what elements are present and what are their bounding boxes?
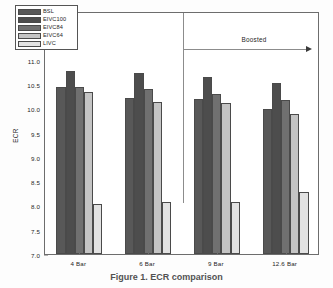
- bar-eivc100-9bar: [203, 77, 212, 254]
- bar-eivc100-4bar: [66, 71, 75, 254]
- bar-livc-126bar: [299, 192, 308, 254]
- boosted-divider: [183, 13, 184, 203]
- legend-label: EIVC64: [43, 32, 63, 39]
- bar-livc-4bar: [93, 204, 102, 254]
- legend-item-bsl: BSL: [18, 8, 75, 15]
- legend-label: LIVC: [43, 40, 56, 47]
- y-axis-tick-label: 10.0: [8, 106, 40, 113]
- boosted-arrow-head: [306, 46, 312, 52]
- figure-caption: Figure 1. ECR comparison: [0, 272, 333, 288]
- bar-bsl-126bar: [263, 109, 272, 254]
- x-axis-group-label: 6 Bar: [139, 260, 155, 267]
- boosted-label: Boosted: [242, 36, 267, 43]
- chart-legend: BSLEIVC100EIVC84EIVC64LIVC: [15, 5, 78, 50]
- legend-swatch-eivc100: [18, 17, 41, 23]
- bar-eivc64-9bar: [221, 103, 230, 254]
- x-axis-tick-mark: [79, 251, 80, 255]
- legend-label: BSL: [43, 8, 54, 15]
- legend-item-eivc84: EIVC84: [18, 24, 75, 31]
- x-axis-group-label: 9 Bar: [208, 260, 224, 267]
- legend-swatch-eivc84: [18, 25, 41, 31]
- legend-item-eivc100: EIVC100: [18, 16, 75, 23]
- bar-bsl-4bar: [56, 87, 65, 254]
- legend-swatch-eivc64: [18, 33, 41, 39]
- bar-eivc100-6bar: [134, 73, 143, 254]
- y-axis-tick-label: 9.5: [8, 130, 40, 137]
- x-axis-tick-mark: [286, 251, 287, 255]
- bar-bsl-6bar: [125, 98, 134, 254]
- legend-label: EIVC100: [43, 16, 66, 23]
- bar-eivc64-4bar: [84, 92, 93, 254]
- legend-label: EIVC84: [43, 24, 63, 31]
- bar-bsl-9bar: [194, 99, 203, 254]
- bar-eivc100-126bar: [272, 83, 281, 254]
- bar-eivc84-6bar: [144, 89, 153, 254]
- y-axis-tick-label: 9.0: [8, 154, 40, 161]
- legend-item-livc: LIVC: [18, 40, 75, 47]
- x-axis-group-label: 12.6 Bar: [272, 260, 297, 267]
- x-axis-tick-mark: [148, 251, 149, 255]
- bar-livc-6bar: [162, 202, 171, 254]
- bar-eivc84-9bar: [212, 94, 221, 254]
- y-axis-tick-label: 8.5: [8, 179, 40, 186]
- y-axis-tick-label: 7.0: [8, 252, 40, 259]
- bar-eivc84-4bar: [75, 87, 84, 254]
- boosted-arrow-line: [183, 49, 311, 50]
- figure-container: ECR 12.011.511.010.510.09.59.08.58.07.57…: [0, 0, 333, 288]
- y-axis-tick-label: 10.5: [8, 81, 40, 88]
- legend-swatch-livc: [18, 41, 41, 47]
- y-axis-tick-label: 7.5: [8, 227, 40, 234]
- y-axis-tick-label: 11.0: [8, 57, 40, 64]
- bar-livc-9bar: [231, 202, 240, 254]
- plot-area: Boosted: [44, 12, 319, 255]
- legend-item-eivc64: EIVC64: [18, 32, 75, 39]
- x-axis-group-label: 4 Bar: [70, 260, 86, 267]
- x-axis-tick-mark: [217, 251, 218, 255]
- bar-eivc64-6bar: [153, 102, 162, 254]
- bar-eivc64-126bar: [290, 114, 299, 254]
- y-axis-tick-label: 8.0: [8, 203, 40, 210]
- legend-swatch-bsl: [18, 9, 41, 15]
- bar-eivc84-126bar: [281, 100, 290, 254]
